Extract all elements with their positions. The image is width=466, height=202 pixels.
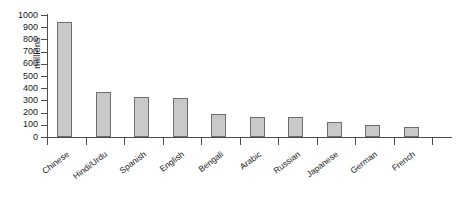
x-axis-tick-labels: ChineseHindi/UrduSpanishEnglishBengaliAr… — [0, 0, 466, 202]
bar-chart: millions 1000900800700600500400300200100… — [0, 0, 466, 202]
